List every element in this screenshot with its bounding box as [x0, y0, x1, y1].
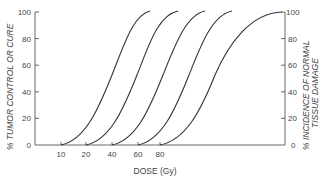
- svg-text:40: 40: [288, 88, 297, 97]
- left-y-axis: [35, 12, 39, 145]
- svg-text:0: 0: [291, 141, 296, 150]
- svg-text:100: 100: [286, 8, 300, 17]
- curves: [61, 11, 282, 145]
- left-y-tick-labels: 0 20 40 60 80 100: [18, 8, 32, 150]
- svg-text:20: 20: [288, 114, 297, 123]
- svg-text:40: 40: [22, 88, 31, 97]
- right-y-axis-label-line2: TISSUE DAMAGE: [310, 58, 320, 128]
- x-tick-labels: 10 20 40 60 80: [57, 150, 165, 159]
- svg-text:80: 80: [288, 35, 297, 44]
- svg-text:100: 100: [18, 8, 32, 17]
- svg-text:60: 60: [22, 61, 31, 70]
- dose-response-chart: 0 20 40 60 80 100 0 20 40 60 80 100 10 2…: [0, 0, 330, 180]
- svg-text:60: 60: [134, 150, 143, 159]
- svg-text:40: 40: [108, 150, 117, 159]
- x-axis-label: DOSE (Gy): [134, 166, 177, 176]
- svg-text:10: 10: [57, 150, 66, 159]
- svg-text:20: 20: [82, 150, 91, 159]
- curve-3: [112, 11, 205, 145]
- right-y-axis: [281, 12, 285, 145]
- curve-4: [138, 11, 232, 145]
- svg-text:80: 80: [22, 35, 31, 44]
- svg-text:60: 60: [288, 61, 297, 70]
- curve-1: [61, 11, 150, 145]
- svg-text:80: 80: [156, 150, 165, 159]
- left-y-axis-label: % TUMOR CONTROL OR CURE: [5, 23, 15, 150]
- svg-text:20: 20: [22, 114, 31, 123]
- right-y-tick-labels: 0 20 40 60 80 100: [286, 8, 300, 150]
- svg-text:0: 0: [27, 141, 32, 150]
- curve-5: [160, 12, 282, 145]
